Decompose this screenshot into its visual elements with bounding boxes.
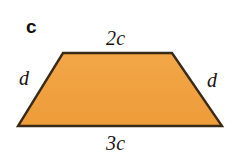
left-side-length-label: d <box>19 68 29 88</box>
geometry-figure: c 2c 3c d d <box>0 0 238 157</box>
top-side-length-label: 2c <box>106 28 125 48</box>
part-label: c <box>26 17 37 36</box>
right-side-length-label: d <box>207 70 217 90</box>
trapezoid-polygon <box>18 53 222 126</box>
bottom-side-length-label: 3c <box>106 133 125 153</box>
